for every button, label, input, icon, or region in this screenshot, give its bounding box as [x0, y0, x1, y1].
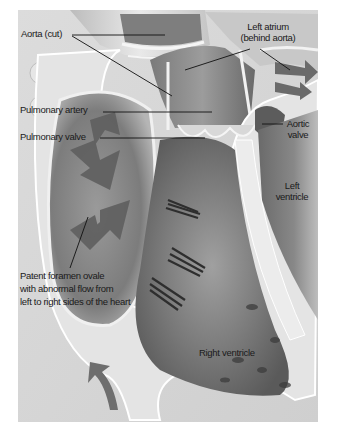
heart-illustration [0, 0, 340, 431]
label-left-ventricle-line1: Left [270, 180, 314, 191]
label-left-ventricle-line2: ventricle [270, 191, 314, 202]
label-left-atrium-line1: Left atrium [228, 21, 308, 32]
label-aortic-valve-line1: Aortic [282, 118, 314, 129]
label-patent-foramen-ovale: Patent foramen ovale with abnormal flow … [20, 269, 130, 308]
label-aorta-cut: Aorta (cut) [21, 28, 62, 39]
label-pulmonary-valve: Pulmonary valve [20, 131, 86, 142]
label-left-atrium: Left atrium (behind aorta) [228, 21, 308, 43]
label-aortic-valve-line2: valve [282, 129, 314, 140]
label-aortic-valve: Aortic valve [282, 118, 314, 140]
label-left-ventricle: Left ventricle [270, 180, 314, 202]
label-pulmonary-artery: Pulmonary artery [20, 104, 88, 115]
label-pfo-line2: with abnormal flow from [20, 282, 130, 295]
label-right-ventricle: Right ventricle [199, 347, 255, 358]
label-pfo-line3: left to right sides of the heart [20, 295, 130, 308]
pulmonary-valve [178, 125, 255, 137]
label-pfo-line1: Patent foramen ovale [20, 269, 130, 282]
label-left-atrium-line2: (behind aorta) [228, 32, 308, 43]
heart-diagram: Aorta (cut) Left atrium (behind aorta) P… [0, 0, 340, 431]
